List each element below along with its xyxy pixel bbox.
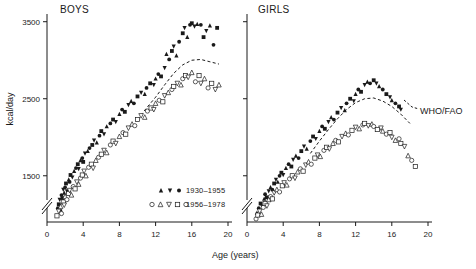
data-point (92, 138, 96, 142)
data-point (95, 140, 99, 144)
data-point (291, 158, 295, 162)
legend-marker-1956-1978 (167, 202, 172, 207)
data-point (199, 81, 204, 86)
data-point (208, 23, 212, 27)
data-point (193, 80, 197, 84)
data-point (384, 92, 388, 96)
data-point (142, 115, 147, 120)
data-point (326, 120, 330, 124)
data-point (390, 135, 395, 140)
data-point (284, 166, 288, 170)
data-point (114, 120, 118, 124)
data-point (124, 132, 128, 136)
legend-marker-1930-1955 (168, 189, 172, 193)
data-point (105, 124, 109, 128)
data-point (170, 49, 174, 53)
data-point (102, 132, 106, 136)
data-point (190, 70, 195, 75)
data-point (336, 111, 340, 115)
x-tick-label-boys-4: 16 (187, 230, 196, 239)
y-tick-label-1: 2500 (22, 95, 40, 104)
data-point (62, 203, 67, 208)
data-point (352, 99, 356, 103)
data-point (308, 139, 312, 143)
data-point (113, 141, 118, 146)
data-point (55, 214, 59, 218)
scatter-plot-svg: 150025003500048121620048121620 (0, 0, 476, 269)
data-point (64, 182, 68, 186)
data-point (76, 162, 80, 166)
data-point (126, 103, 130, 107)
data-point (62, 190, 66, 194)
data-point (336, 140, 340, 144)
data-point (267, 189, 271, 193)
x-tick-label-girls-3: 12 (351, 230, 360, 239)
data-point (145, 86, 149, 90)
x-tick-label-boys-1: 4 (81, 230, 86, 239)
data-point (91, 166, 96, 171)
figure-canvas: BOYS GIRLS kcal/day Age (years) 15002500… (0, 0, 476, 269)
data-point (213, 87, 218, 92)
data-point (167, 58, 171, 62)
data-point (73, 187, 77, 191)
legend-marker-1930-1955 (159, 188, 163, 192)
data-point (374, 81, 378, 85)
legend-marker-1930-1955 (177, 189, 181, 193)
data-point (164, 52, 168, 56)
data-point (272, 182, 276, 186)
data-point (152, 83, 156, 87)
data-point (182, 26, 186, 30)
legend-marker-1956-1978 (158, 202, 163, 207)
data-point (289, 165, 293, 169)
data-point (154, 76, 158, 80)
data-point (394, 101, 398, 105)
data-point (202, 35, 206, 39)
data-point (99, 152, 103, 156)
x-tick-label-girls-4: 16 (387, 230, 396, 239)
data-point (172, 84, 176, 88)
data-point (323, 127, 327, 131)
data-point (63, 185, 67, 189)
data-point (354, 92, 358, 96)
data-point (281, 173, 285, 177)
data-point (133, 124, 137, 128)
data-point (314, 137, 318, 141)
data-point (185, 35, 189, 39)
data-point (159, 75, 163, 79)
data-point (204, 29, 208, 33)
data-point (309, 162, 313, 166)
data-point (59, 211, 63, 215)
data-point (212, 43, 216, 47)
data-point (410, 158, 414, 162)
data-point (132, 101, 136, 105)
data-point (199, 23, 203, 27)
data-point (270, 197, 274, 201)
data-point (179, 82, 184, 87)
data-point (70, 175, 74, 179)
data-point (277, 190, 281, 194)
data-point (81, 160, 85, 164)
data-point (143, 92, 147, 96)
who-fao-leader-line (404, 100, 419, 109)
data-point (305, 147, 309, 151)
data-point (65, 198, 69, 202)
legend-marker-1956-1978 (175, 202, 179, 206)
data-point (346, 133, 350, 137)
x-tick-label-boys-2: 8 (117, 230, 122, 239)
data-point (359, 90, 363, 94)
data-point (406, 153, 411, 158)
data-point (206, 86, 210, 90)
x-tick-label-girls-5: 20 (424, 230, 433, 239)
data-point (197, 74, 201, 78)
data-point (210, 81, 214, 85)
legend-label-1930-1955: 1930–1955 (186, 186, 225, 195)
data-point (397, 137, 401, 141)
data-point (215, 26, 219, 30)
data-point (413, 164, 417, 168)
data-point (123, 110, 127, 114)
data-point (117, 112, 121, 116)
x-tick-label-girls-0: 0 (245, 230, 250, 239)
data-point (161, 100, 165, 104)
data-point (357, 126, 362, 131)
x-tick-label-boys-0: 0 (45, 230, 50, 239)
